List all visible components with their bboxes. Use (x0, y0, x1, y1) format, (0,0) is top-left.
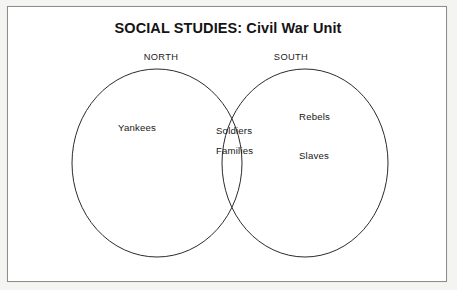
venn-right-item-rebels: Rebels (299, 111, 330, 122)
worksheet-page: SOCIAL STUDIES: Civil War Unit NORTH SOU… (0, 0, 457, 290)
venn-left-item-yankees: Yankees (118, 122, 156, 133)
venn-overlap-item-families: Families (216, 145, 253, 156)
venn-overlap-item-soldiers: Soldiers (216, 125, 253, 136)
venn-right-item-slaves: Slaves (299, 150, 330, 161)
venn-right-items: Rebels Slaves (299, 111, 330, 189)
venn-overlap-items: Soldiers Families (216, 125, 253, 165)
worksheet-frame: SOCIAL STUDIES: Civil War Unit NORTH SOU… (7, 6, 447, 282)
